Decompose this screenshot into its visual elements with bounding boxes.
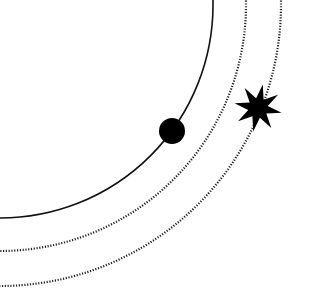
orbit-diagram [0, 0, 309, 297]
outer-orbit-arc [0, 0, 281, 286]
star-burst-icon [235, 85, 282, 132]
planet-dot-icon [159, 118, 185, 144]
inner-orbit-arc [0, 0, 213, 218]
orbit-diagram-canvas [0, 0, 309, 297]
middle-orbit-arc [0, 0, 246, 251]
